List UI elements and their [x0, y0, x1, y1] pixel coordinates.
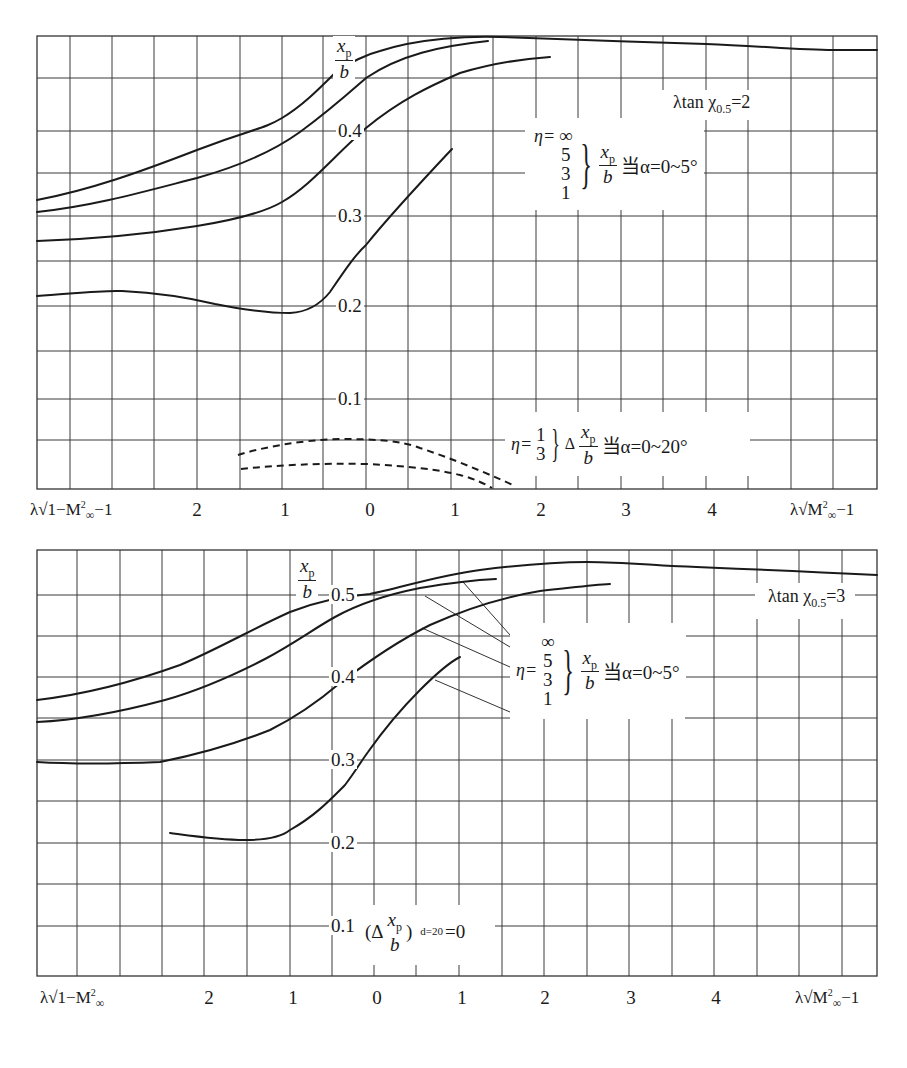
bottom-ytick-0.3: 0.3: [329, 750, 357, 769]
leader-line: [435, 680, 510, 712]
bottom-xtick: 3: [626, 988, 636, 1007]
bottom-chart-plot: [0, 0, 907, 1068]
bottom-xtick: 0: [372, 988, 382, 1007]
bottom-ytick-0.5: 0.5: [329, 585, 357, 604]
brace-icon: }: [562, 643, 574, 697]
bottom-ytick-0.1: 0.1: [329, 916, 357, 935]
bottom-x-label-left: λ√1−M2∞: [40, 988, 104, 1009]
bottom-param-annotation: λtan χ0.5=3: [768, 587, 845, 609]
bottom-xtick: 1: [457, 988, 467, 1007]
bottom-xtick: 1: [288, 988, 298, 1007]
bottom-y-axis-label: xpb: [296, 556, 318, 601]
bottom-ytick-0.4: 0.4: [329, 667, 357, 686]
leader-line: [422, 628, 510, 667]
bottom-xtick: 2: [204, 988, 214, 1007]
bottom-legend-solid: η= ∞531 } xpb 当α=0~5°: [510, 628, 686, 712]
bottom-curve-eta-5: [37, 579, 496, 722]
bottom-xtick: 2: [540, 988, 550, 1007]
bottom-chart: xpb 0.5 0.4 0.3 0.2 0.1 λtan χ0.5=3 η= ∞…: [0, 0, 907, 1068]
bottom-x-label-right: λ√M2∞−1: [795, 988, 859, 1009]
bottom-ytick-0.2: 0.2: [329, 833, 357, 852]
bottom-xtick: 4: [711, 988, 721, 1007]
bottom-delta-note: (Δ xpb ) d=20=0: [365, 910, 465, 954]
eta-values: ∞531: [541, 632, 555, 708]
